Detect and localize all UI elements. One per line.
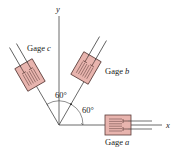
y-axis-label: y: [55, 4, 60, 14]
arc-marker: [70, 103, 72, 105]
angle-label-x-b: 60°: [82, 105, 94, 115]
gage-b-label: Gage b: [105, 66, 129, 76]
gage-b: [71, 34, 112, 85]
x-axis-label: x: [165, 120, 170, 130]
gage-c-axis-line: [34, 82, 59, 125]
gage-c-label: Gage c: [27, 43, 51, 53]
rosette-diagram: y x 60° 60° Gage a Gage b Gage c: [0, 0, 176, 151]
gage-a-label: Gage a: [105, 137, 129, 147]
angle-label-b-c: 60°: [55, 90, 67, 100]
